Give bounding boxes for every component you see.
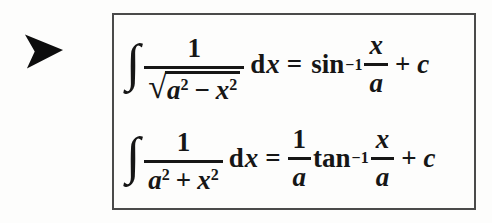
var-a: a [167,75,181,105]
equals-sign: = [287,49,302,80]
arg-numerator-x: x [371,124,395,155]
differential-x: x [266,49,280,79]
coef-numerator: 1 [288,124,312,155]
fraction-bar [371,157,395,160]
fraction-denominator: a2+x2 [144,165,222,196]
var-a: a [148,165,162,195]
differential-d: d [229,143,244,173]
main-fraction: 1 a2+x2 [144,127,222,196]
integral-sign: ∫ [126,37,140,89]
differential-d: d [250,49,265,79]
formula-box: ∫ 1 √ a2−x2 dx = sin−1 x a + c [112,13,476,210]
fraction-bar [288,157,312,160]
fraction-numerator: 1 [184,33,206,64]
integral-sign: ∫ [126,130,140,182]
var-x: x [216,75,230,105]
plus-operator: + [176,165,191,195]
constant-c: c [417,49,429,80]
fraction-numerator: 1 [173,127,195,158]
differential: dx [250,49,280,80]
radicand: a2−x2 [165,71,240,106]
argument-fraction: x a [371,124,395,193]
exponent: 2 [162,166,170,183]
exponent: 2 [211,166,219,183]
argument-fraction: x a [364,30,388,99]
exponent: 2 [229,76,237,93]
square-root: √ a2−x2 [148,71,240,106]
radical-sign: √ [148,70,167,104]
inverse-exponent: −1 [345,57,362,73]
plus-sign: + [395,49,410,80]
plus-sign: + [401,143,416,174]
right-arrowhead-icon [23,34,64,70]
arg-numerator-x: x [364,30,388,61]
function-tan: tan [313,143,351,174]
function-sin: sin [311,49,344,80]
coef-denominator-a: a [288,162,312,193]
right-arrowhead-shape [23,34,64,70]
inverse-exponent: −1 [352,150,369,166]
exponent: 2 [180,76,188,93]
minus-operator: − [194,75,209,105]
fraction-bar [364,63,388,66]
figure-canvas: ∫ 1 √ a2−x2 dx = sin−1 x a + c [0,0,492,223]
formula-arcsin: ∫ 1 √ a2−x2 dx = sin−1 x a + c [126,18,470,112]
main-fraction: 1 √ a2−x2 [144,33,244,106]
formula-arctan: ∫ 1 a2+x2 dx = 1 a tan−1 x a + c [126,112,470,206]
arg-denominator-a: a [371,162,395,193]
fraction-bar [144,160,222,163]
differential: dx [229,143,259,174]
var-x: x [197,165,211,195]
constant-c: c [424,143,436,174]
coefficient-fraction: 1 a [288,124,312,193]
equals-sign: = [265,143,280,174]
arg-denominator-a: a [364,68,388,99]
differential-x: x [245,143,259,173]
fraction-denominator: √ a2−x2 [144,71,244,106]
